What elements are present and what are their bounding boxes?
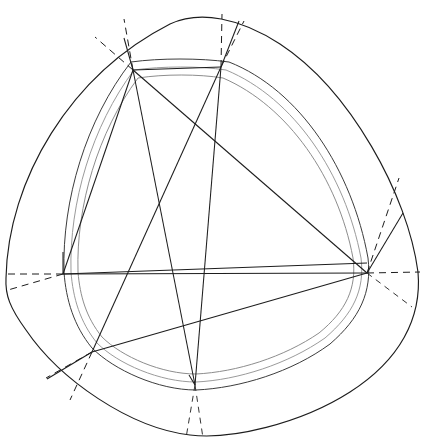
chord-F-to-upper-right [63, 263, 367, 274]
ray-B-out-2 [221, 21, 244, 67]
ray-C-out-1 [367, 272, 420, 273]
inner-ring-middle-wall [71, 67, 362, 382]
ray-A-out-2 [95, 37, 133, 70]
chord-F-to-C [63, 273, 367, 274]
inner-ring-group [64, 59, 369, 390]
ray-D-out-1 [186, 385, 195, 438]
ray-C-out-2 [367, 178, 399, 273]
chord-A-to-F [63, 70, 133, 274]
ray-C-out-3 [367, 273, 412, 307]
geometric-diagram [0, 0, 432, 446]
spoke-B [221, 21, 239, 67]
chord-E-to-C [92, 273, 367, 352]
spoke-group [47, 21, 403, 385]
ray-F-out-2 [8, 274, 63, 290]
figure-canvas: Inscribed hexagon in a rounded triangula… [0, 0, 432, 446]
inner-ring-inner-wall [78, 75, 354, 374]
spoke-C [367, 213, 403, 273]
chord-network-group [63, 67, 367, 385]
chord-A-to-C [133, 70, 367, 273]
ray-B-out-1 [221, 14, 222, 67]
spoke-E [47, 352, 92, 379]
dashed-ray-group [6, 14, 420, 438]
ray-D-out-2 [195, 385, 203, 438]
